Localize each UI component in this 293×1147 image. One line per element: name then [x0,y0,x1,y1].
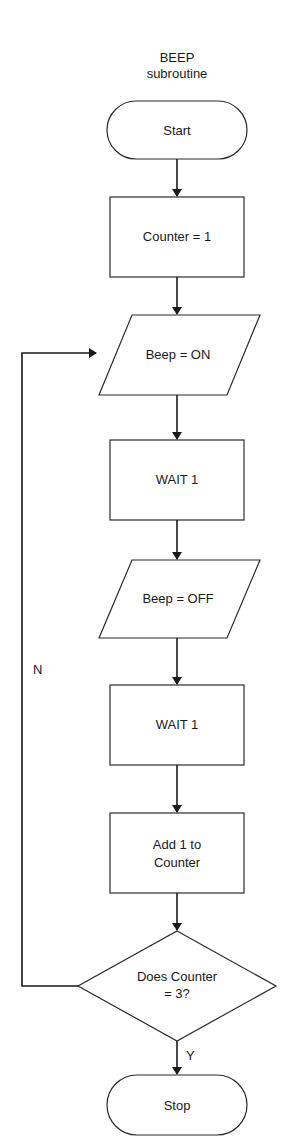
start-label: Start [163,123,191,138]
decision-diamond: Does Counter = 3? [78,931,276,1041]
wait-1a-box: WAIT 1 [110,440,244,520]
add-counter-label-line2: Counter [154,855,201,870]
counter-init-label: Counter = 1 [143,229,211,244]
no-label: N [33,662,42,677]
beep-on-io: Beep = ON [99,315,260,395]
title-line1: BEEP [160,50,195,65]
start-terminal: Start [107,101,247,159]
yes-label: Y [186,1048,195,1063]
decision-label-line1: Does Counter [137,969,218,984]
title-line2: subroutine [147,66,208,81]
beep-on-label: Beep = ON [146,347,211,362]
add-counter-label-line1: Add 1 to [153,837,201,852]
flowchart-canvas: BEEP subroutine Start Counter = 1 Beep =… [0,0,293,1147]
beep-off-label: Beep = OFF [142,591,213,606]
stop-terminal: Stop [107,1075,247,1135]
counter-init-box: Counter = 1 [110,197,244,277]
beep-off-io: Beep = OFF [99,560,260,638]
add-counter-box: Add 1 to Counter [110,813,244,893]
wait-1b-box: WAIT 1 [110,685,244,765]
wait-1a-label: WAIT 1 [156,472,199,487]
decision-label-line2: = 3? [164,986,190,1001]
wait-1b-label: WAIT 1 [156,717,199,732]
stop-label: Stop [164,1098,191,1113]
